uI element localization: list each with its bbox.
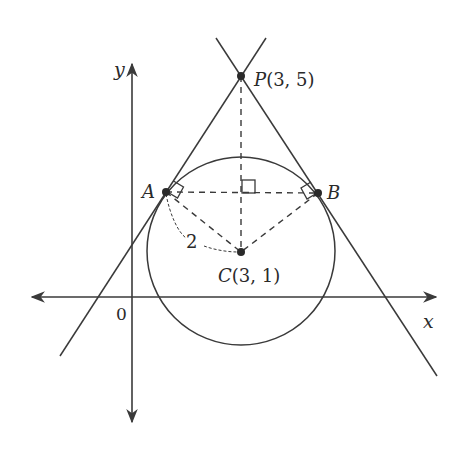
point-P-label: P(3, 5) xyxy=(253,69,315,90)
right-angle-marker-center xyxy=(242,180,255,193)
y-axis-label: y xyxy=(113,58,125,80)
dashed-segments xyxy=(166,76,318,252)
tangent-line-PB xyxy=(216,38,437,376)
radius-length-label: 2 xyxy=(186,231,197,252)
tangent-line-PA xyxy=(60,38,266,356)
point-C xyxy=(237,248,245,256)
point-C-name: C xyxy=(218,265,232,286)
point-P xyxy=(237,72,245,80)
x-axis-label: x xyxy=(423,310,434,332)
point-C-coords: (3, 1) xyxy=(232,265,280,286)
point-P-name: P xyxy=(253,69,267,90)
radius-length-arc xyxy=(166,194,238,252)
point-C-label: C(3, 1) xyxy=(218,265,280,286)
origin-label: 0 xyxy=(116,304,127,324)
point-A-label: A xyxy=(140,181,155,202)
segment-BC xyxy=(241,193,318,252)
point-B-label: B xyxy=(326,182,340,203)
point-A xyxy=(162,188,170,196)
tangent-circle-diagram: y x 0 P(3, 5) A B C(3, 1) 2 xyxy=(0,0,459,460)
point-P-coords: (3, 5) xyxy=(266,69,314,90)
segment-AC xyxy=(166,192,241,252)
point-B xyxy=(314,189,322,197)
